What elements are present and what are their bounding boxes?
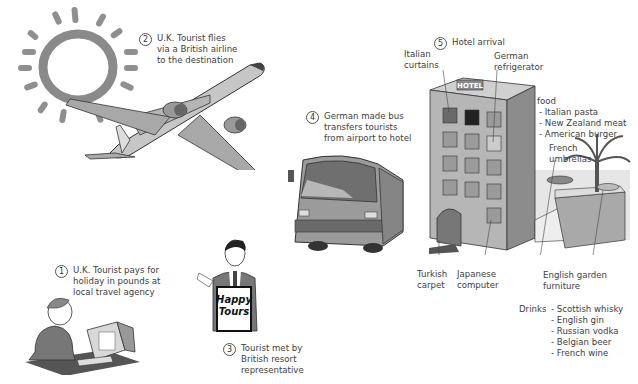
step-number: 2 — [139, 33, 152, 46]
step-text: holiday in pounds at — [73, 276, 161, 287]
step-text: transfers tourists — [324, 122, 411, 133]
bus-illustration — [283, 150, 408, 260]
step-5-label: 5 Hotel arrival — [434, 37, 505, 50]
step-4-label: 4 German made bus transfers tourists fro… — [306, 111, 411, 144]
french-umbrellas-label: Frenchumbrellas — [549, 143, 591, 165]
step-text: local travel agency — [73, 287, 161, 298]
step-number: 3 — [223, 343, 236, 356]
step-text: from airport to hotel — [324, 133, 411, 144]
step-1-label: 1 U.K. Tourist pays for holiday in pound… — [55, 265, 161, 298]
airplane-illustration — [60, 55, 270, 170]
step-text: Hotel arrival — [452, 37, 505, 48]
step-text: representative — [241, 365, 304, 376]
step-number: 1 — [55, 265, 68, 278]
step-text: British resort — [241, 354, 304, 365]
german-refrigerator-label: Germanrefrigerator — [494, 51, 543, 73]
step-text: U.K. Tourist flies — [157, 33, 237, 44]
sign-line-1: Happy — [216, 294, 252, 305]
step-number: 4 — [306, 111, 319, 124]
step-text: German made bus — [324, 111, 411, 122]
step-2-label: 2 U.K. Tourist flies via a British airli… — [139, 33, 237, 66]
step-text: U.K. Tourist pays for — [73, 265, 161, 276]
japanese-computer-label: Japanesecomputer — [457, 269, 498, 291]
travel-agent-illustration — [15, 290, 145, 375]
italian-curtains-label: Italiancurtains — [404, 49, 439, 71]
step-3-label: 3 Tourist met by British resort represen… — [223, 343, 304, 376]
step-text: Tourist met by — [241, 343, 304, 354]
drinks-list: - Scottish whisky - English gin - Russia… — [551, 304, 623, 359]
step-text: to the destination — [157, 55, 237, 66]
sign-line-2: Tours — [219, 306, 249, 317]
representative-illustration: Happy Tours — [195, 233, 275, 333]
food-list: food - Italian pasta - New Zealand meat … — [537, 96, 626, 140]
hotel-sign: HOTEL — [457, 82, 483, 90]
turkish-carpet-label: Turkishcarpet — [417, 269, 447, 291]
english-garden-furniture-label: English gardenfurniture — [543, 270, 607, 292]
drinks-title: Drinks — [519, 304, 546, 315]
step-text: via a British airline — [157, 44, 237, 55]
